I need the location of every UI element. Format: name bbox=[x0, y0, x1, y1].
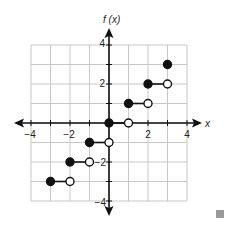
closed-point bbox=[125, 100, 133, 108]
tick-y-neg2: −2 bbox=[95, 157, 107, 168]
x-axis-label: x bbox=[204, 118, 211, 129]
open-point bbox=[164, 80, 172, 88]
gray-square-marker bbox=[216, 210, 224, 218]
open-point bbox=[125, 119, 133, 127]
tick-y-2: 2 bbox=[99, 78, 105, 89]
open-point bbox=[66, 178, 74, 186]
open-point bbox=[144, 100, 152, 108]
tick-x-4: 4 bbox=[184, 129, 190, 140]
tick-y-neg4: −4 bbox=[95, 197, 107, 208]
tick-y-4: 4 bbox=[99, 38, 105, 49]
tick-x-neg4: −4 bbox=[24, 129, 36, 140]
tick-x-2: 2 bbox=[145, 129, 151, 140]
closed-point bbox=[144, 80, 152, 88]
closed-point bbox=[47, 178, 55, 186]
closed-point bbox=[164, 61, 172, 69]
open-point bbox=[86, 158, 94, 166]
tick-x-neg2: −2 bbox=[63, 129, 75, 140]
closed-point bbox=[105, 119, 113, 127]
closed-point bbox=[66, 158, 74, 166]
open-point bbox=[105, 139, 113, 147]
y-axis-label: f (x) bbox=[103, 14, 120, 25]
step-function-graph: −4 −2 2 4 4 2 −2 −4 x f (x) bbox=[0, 0, 233, 230]
closed-point bbox=[86, 139, 94, 147]
